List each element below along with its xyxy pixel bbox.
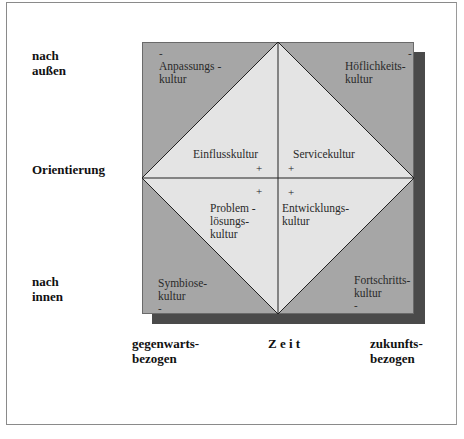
label-entwicklungskultur: Entwicklungs- kultur [282,202,349,228]
label-servicekultur: Servicekultur [293,148,355,161]
x-axis-left-label: gegenwarts- bezogen [132,336,199,366]
y-bottom-line2: innen [32,289,63,304]
y-axis-top-label: nach außen [32,48,66,78]
label-anpassungskultur: Anpassungs - kultur [159,60,221,86]
label-fortschrittskultur: Fortschritts- kultur [354,274,410,300]
hoeflichkeit-line2: kultur [345,73,406,86]
problem-line3: kultur [210,228,256,241]
sign-fortschritt: - [354,300,358,311]
sign-hoeflichkeit: - [408,48,412,59]
entwicklung-line1: Entwicklungs- [282,202,349,215]
y-top-line2: außen [32,63,66,78]
y-axis-bottom-label: nach innen [32,274,63,304]
label-problemloesungskultur: Problem - lösungs- kultur [210,202,256,241]
x-right-line1: zukunfts- [370,336,423,351]
anpassung-line1: Anpassungs - [159,60,221,73]
sign-service: + [288,163,294,174]
label-einflusskultur: Einflusskultur [193,148,258,161]
sign-einfluss: + [256,163,262,174]
entwicklung-line2: kultur [282,215,349,228]
x-left-line1: gegenwarts- [132,336,199,351]
y-axis-middle-label: Orientierung [32,162,105,177]
label-symbiosekultur: Symbiose- kultur [158,277,207,303]
fortschritt-line2: kultur [354,287,410,300]
y-top-line1: nach [32,48,66,63]
sign-anpassung: - [159,48,163,59]
anpassung-line2: kultur [159,73,221,86]
symbiose-line2: kultur [158,290,207,303]
x-axis-right-label: zukunfts- bezogen [370,336,423,366]
x-right-line2: bezogen [370,351,423,366]
symbiose-line1: Symbiose- [158,277,207,290]
x-left-line2: bezogen [132,351,199,366]
y-bottom-line1: nach [32,274,63,289]
fortschritt-line1: Fortschritts- [354,274,410,287]
problem-line1: Problem - [210,202,256,215]
label-hoeflichkeitskultur: Höflichkeits- kultur [345,60,406,86]
hoeflichkeit-line1: Höflichkeits- [345,60,406,73]
sign-symbiose: - [158,303,162,314]
problem-line2: lösungs- [210,215,256,228]
sign-entwicklung: + [288,187,294,198]
sign-problemloesung: + [256,186,262,197]
x-axis-middle-label: Z e i t [268,336,300,351]
